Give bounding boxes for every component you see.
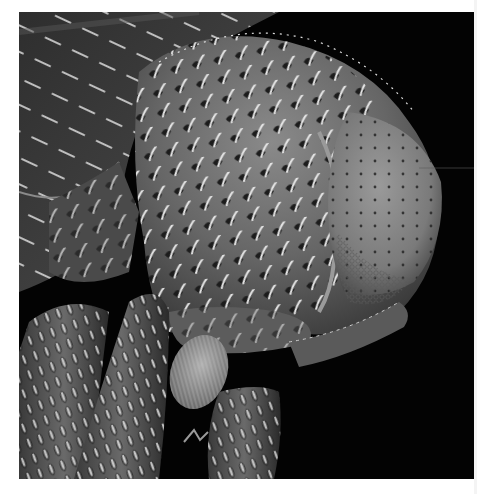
sem-micrograph bbox=[19, 12, 474, 479]
